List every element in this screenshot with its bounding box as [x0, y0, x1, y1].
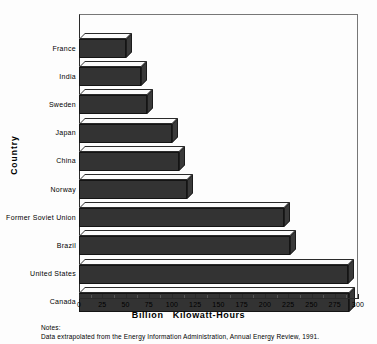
x-tick-150 [219, 294, 220, 298]
bar-side-face [179, 146, 185, 171]
bar-india[interactable] [79, 61, 147, 86]
bar-china[interactable] [79, 146, 185, 171]
bar-canada[interactable] [79, 287, 355, 312]
x-tick-minor [346, 295, 347, 298]
bar-front-face [79, 95, 147, 114]
x-tick-250 [312, 294, 313, 298]
x-tick-minor [160, 295, 161, 298]
bar-front-face [79, 152, 179, 171]
x-tick-minor [323, 295, 324, 298]
x-tick-minor [91, 295, 92, 298]
x-tick-minor [253, 295, 254, 298]
x-tick-minor [184, 295, 185, 298]
bar-side-face [349, 287, 355, 312]
bar-side-face [126, 33, 132, 58]
x-tick-minor [300, 295, 301, 298]
bar-series [0, 0, 377, 344]
x-axis-title: Billion Kilowatt-Hours [0, 310, 377, 320]
x-tick-225 [288, 294, 289, 298]
x-axis-line [79, 298, 359, 299]
x-tick-minor [137, 295, 138, 298]
x-tick-0 [79, 294, 80, 298]
bar-front-face [79, 124, 172, 143]
bar-japan[interactable] [79, 118, 178, 143]
x-tick-300 [358, 294, 359, 298]
x-tick-75 [149, 294, 150, 298]
bar-side-face [141, 61, 147, 86]
bar-united-states[interactable] [79, 259, 354, 284]
x-tick-100 [172, 294, 173, 298]
x-tick-50 [126, 294, 127, 298]
bar-sweden[interactable] [79, 89, 153, 114]
bar-front-face [79, 236, 290, 255]
bar-side-face [290, 230, 296, 255]
x-tick-minor [114, 295, 115, 298]
bar-brazil[interactable] [79, 230, 296, 255]
notes-block: Notes: Data extrapolated from the Energy… [41, 323, 319, 341]
bar-side-face [172, 118, 178, 143]
x-tick-minor [277, 295, 278, 298]
bar-norway[interactable] [79, 174, 193, 199]
bar-france[interactable] [79, 33, 132, 58]
x-tick-125 [195, 294, 196, 298]
x-tick-minor [207, 295, 208, 298]
x-tick-200 [265, 294, 266, 298]
bar-side-face [284, 202, 290, 227]
chart-page: Country FranceIndiaSwedenJapanChinaNorwa… [0, 0, 377, 344]
bar-front-face [79, 180, 187, 199]
bar-former-soviet-union[interactable] [79, 202, 290, 227]
x-tick-275 [335, 294, 336, 298]
bar-side-face [147, 89, 153, 114]
x-tick-minor [230, 295, 231, 298]
bar-side-face [187, 174, 193, 199]
bar-front-face [79, 265, 348, 284]
bar-front-face [79, 67, 141, 86]
x-tick-label-300: 300 [343, 301, 373, 308]
notes-text: Data extrapolated from the Energy Inform… [41, 332, 319, 341]
bar-front-face [79, 208, 284, 227]
bar-front-face [79, 39, 126, 58]
notes-label: Notes: [41, 323, 319, 332]
x-tick-175 [242, 294, 243, 298]
x-tick-25 [102, 294, 103, 298]
